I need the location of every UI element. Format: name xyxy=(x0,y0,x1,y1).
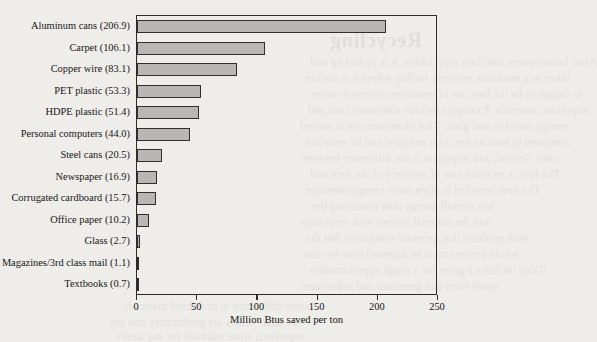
x-axis-tick-label: 200 xyxy=(369,301,385,312)
bar xyxy=(137,214,149,227)
bar-row xyxy=(137,145,436,167)
category-label: Glass (2.7) xyxy=(0,230,133,252)
bar xyxy=(137,42,265,55)
category-label: Carpet (106.1) xyxy=(0,37,133,59)
x-axis-tick-label: 50 xyxy=(191,301,201,312)
bar-row xyxy=(137,231,436,253)
category-label: Aluminum cans (206.9) xyxy=(0,15,133,37)
x-axis-tick xyxy=(377,295,378,300)
bar xyxy=(137,278,139,291)
bar-row xyxy=(137,210,436,232)
category-label: PET plastic (53.3) xyxy=(0,80,133,102)
x-axis-tick xyxy=(256,295,257,300)
category-label: Textbooks (0.7) xyxy=(0,273,133,295)
category-label: Magazines/3rd class mail (1.1) xyxy=(0,252,133,274)
x-axis-tick xyxy=(317,295,318,300)
bar-row xyxy=(137,188,436,210)
category-label: Corrugated cardboard (15.7) xyxy=(0,187,133,209)
category-label: Steel cans (20.5) xyxy=(0,144,133,166)
x-axis-tick xyxy=(437,295,438,300)
category-label: Personal computers (44.0) xyxy=(0,123,133,145)
x-axis-tick-label: 250 xyxy=(429,301,445,312)
bar xyxy=(137,192,156,205)
category-label: Copper wire (83.1) xyxy=(0,58,133,80)
bar xyxy=(137,235,140,248)
category-axis-labels: Aluminum cans (206.9)Carpet (106.1)Coppe… xyxy=(0,15,133,295)
category-label: HDPE plastic (51.4) xyxy=(0,101,133,123)
bar xyxy=(137,149,162,162)
bar xyxy=(137,106,199,119)
bar-row xyxy=(137,16,436,38)
bar xyxy=(137,85,201,98)
bar-row xyxy=(137,102,436,124)
bar xyxy=(137,257,139,270)
bar xyxy=(137,128,190,141)
bar xyxy=(137,171,157,184)
bar-row xyxy=(137,59,436,81)
bar xyxy=(137,20,386,33)
category-label: Office paper (10.2) xyxy=(0,209,133,231)
bar-row xyxy=(137,253,436,275)
x-axis-tick-label: 100 xyxy=(249,301,265,312)
x-axis-tick xyxy=(196,295,197,300)
bars-container xyxy=(137,16,436,294)
category-label: Newspaper (16.9) xyxy=(0,166,133,188)
x-axis-title: Million Btus saved per ton xyxy=(136,314,437,325)
bar-row xyxy=(137,81,436,103)
bar xyxy=(137,63,237,76)
bar-row xyxy=(137,38,436,60)
bar-row xyxy=(137,124,436,146)
x-axis-tick-label: 150 xyxy=(309,301,325,312)
bar-row xyxy=(137,167,436,189)
x-axis-tick-label: 0 xyxy=(133,301,138,312)
x-axis: 050100150200250 xyxy=(136,295,437,296)
bar-row xyxy=(137,274,436,296)
plot-area xyxy=(136,15,437,295)
x-axis-tick xyxy=(136,295,137,300)
